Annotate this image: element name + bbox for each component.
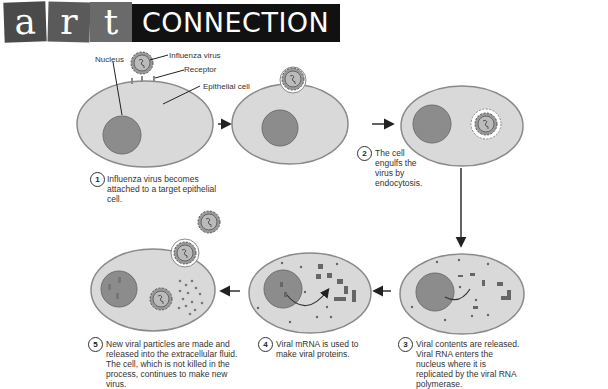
influenza-virus-icon [131, 52, 153, 74]
step-number-4: 4 [258, 337, 273, 352]
cell-step-4 [249, 253, 371, 333]
step-caption-1: Influenza virus becomes attached to a ta… [107, 174, 222, 204]
label-nucleus: Nucleus [95, 55, 124, 64]
cell-step-5 [91, 211, 220, 331]
step-number-5: 5 [88, 337, 103, 352]
step-caption-2: The cell engulfs the virus by endocytosi… [375, 148, 427, 188]
label-influenza-virus: Influenza virus [169, 51, 221, 60]
step-caption-5: New viral particles are made and release… [106, 339, 240, 389]
label-receptor: Receptor [184, 65, 216, 74]
label-epithelial-cell: Epithelial cell [203, 82, 250, 91]
step-caption-4: Viral mRNA is used to make viral protein… [276, 339, 374, 359]
cell-step-3 [400, 254, 524, 334]
step-caption-3: Viral contents are released. Viral RNA e… [416, 339, 524, 389]
step-number-1: 1 [90, 172, 105, 187]
step-number-3: 3 [398, 337, 413, 352]
step-number-2: 2 [357, 146, 372, 161]
